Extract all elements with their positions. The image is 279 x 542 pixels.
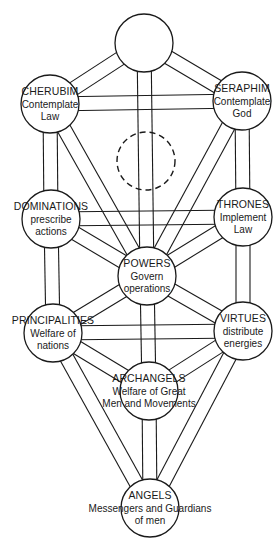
path-edge-line [151,43,154,276]
path-edge-line [141,98,236,273]
node-title: DOMINATIONS [14,200,88,212]
path-edge-line [137,43,140,276]
node-description-line: Contemplate [22,99,79,110]
node-dominations: DOMINATIONSprescribeactions [14,190,88,248]
node-angels: ANGELSMessengers and Guardiansof men [89,479,212,537]
node-description-line: of men [135,515,166,526]
node-description-line: energies [224,338,262,349]
node-description-line: Contemplate [214,96,271,107]
node-title: ANGELS [128,489,171,501]
node-title: POWERS [123,257,170,269]
node-description-line: Law [234,224,253,235]
node-title: PRINCIPALITIES [12,314,94,326]
node-description-line: nations [37,340,69,351]
node-description-line: operations [124,283,171,294]
node-description-line: Implement [220,212,267,223]
node-description-line: Messengers and Guardians [89,503,212,514]
node-title: CHERUBIM [22,85,79,97]
node-description-line: Govern [131,271,164,282]
node-seraphim: SERAPHIMContemplateGod [213,72,271,130]
path-top-powers [137,43,154,276]
node-description-line: prescribe [30,214,72,225]
node-principalities: PRINCIPALITIESWelfare ofnations [12,304,94,362]
node-virtues: VIRTUESdistributeenergies [214,302,272,360]
node-thrones: THRONESImplementLaw [214,188,272,246]
node-archangels: ARCHANGELSWelfare of GreatMen and Moveme… [102,362,195,420]
path-edge-line [156,334,249,511]
node-description-line: Men and Movements [102,398,195,409]
node-description-line: God [233,108,252,119]
node-title: ARCHANGELS [112,372,185,384]
node-description-line: Welfare of Great [112,386,185,397]
diagram-svg: CHERUBIMContemplateLawSERAPHIMContemplat… [0,0,279,542]
node-description-line: Law [41,111,60,122]
node-hidden [117,132,175,190]
nodes-layer: CHERUBIMContemplateLawSERAPHIMContemplat… [12,14,272,537]
node-title: THRONES [217,198,269,210]
path-edge-line [47,336,144,511]
node-powers: POWERSGovernoperations [118,247,176,305]
node-description-line: actions [35,226,67,237]
node-top [115,14,173,72]
node-circle [115,14,173,72]
dashed-node-circle [117,132,175,190]
node-title: SERAPHIM [214,82,270,94]
node-description-line: distribute [223,326,264,337]
node-cherubim: CHERUBIMContemplateLaw [21,75,79,133]
tree-of-life-diagram: CHERUBIMContemplateLawSERAPHIMContemplat… [0,0,279,542]
node-description-line: Welfare of [30,328,76,339]
node-title: VIRTUES [220,312,266,324]
